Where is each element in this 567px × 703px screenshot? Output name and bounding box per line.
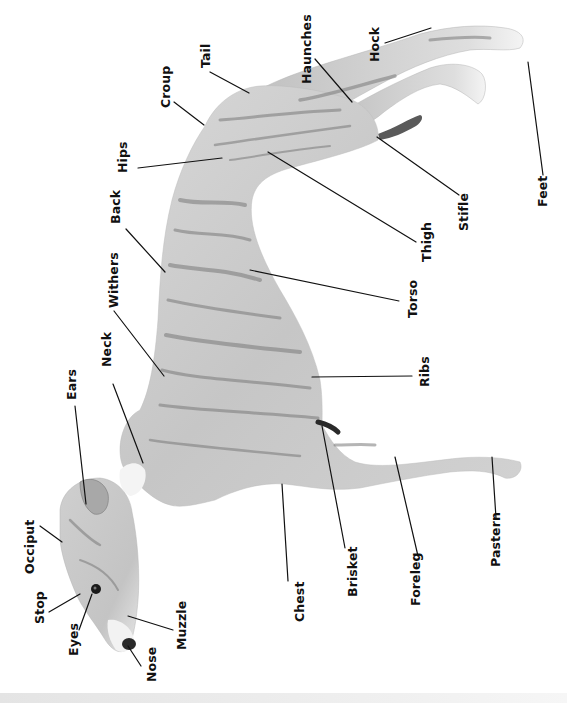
label-hock: Hock [369,27,382,62]
leader-line-back [126,229,165,272]
label-tail: Tail [200,44,213,68]
tail [378,115,422,140]
leader-line-croup [174,102,204,125]
leader-line-occiput [40,526,62,542]
label-stifle: Stifle [458,193,471,231]
leader-line-tail [210,72,249,93]
label-withers: Withers [108,252,121,308]
leader-line-stifle [377,137,459,195]
bottom-edge-band [0,693,567,703]
leader-line-feet [528,62,543,175]
label-ears: Ears [66,369,79,400]
label-brisket: Brisket [347,546,360,597]
leader-line-ribs [312,376,412,377]
label-stop: Stop [34,591,47,624]
label-torso: Torso [407,280,420,318]
greyhound-illustration [0,0,567,703]
label-foreleg: Foreleg [410,552,423,606]
label-pastern: Pastern [490,512,503,567]
leader-line-chest [282,484,288,581]
label-muzzle: Muzzle [176,601,189,650]
label-ribs: Ribs [419,356,432,387]
label-croup: Croup [160,66,173,108]
label-occiput: Occiput [24,520,37,574]
eye-highlight [94,587,97,590]
label-eyes: Eyes [68,623,81,656]
label-back: Back [110,190,123,224]
leader-line-thigh [268,152,416,242]
label-nose: Nose [146,647,159,682]
dog-anatomy-diagram: Occiput Stop Eyes Nose Muzzle Ears Neck … [0,0,567,703]
label-haunches: Haunches [301,14,314,84]
label-hips: Hips [117,141,130,173]
label-chest: Chest [294,582,307,622]
leader-line-stop [49,594,80,612]
label-feet: Feet [537,176,550,207]
leader-line-nose [128,646,141,666]
label-neck: Neck [101,332,114,367]
label-thigh: Thigh [421,222,434,262]
